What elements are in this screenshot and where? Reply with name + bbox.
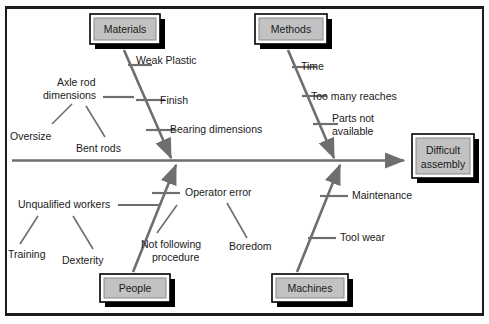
fishbone-diagram: Weak Plastic Finish Bearing dimensions A… xyxy=(0,0,489,324)
category-box-materials[interactable]: Materials xyxy=(90,14,165,49)
cause-label-bearing-dimensions: Bearing dimensions xyxy=(170,123,262,135)
twig-dexterity xyxy=(73,216,93,249)
cause-label-time: Time xyxy=(301,60,324,72)
effect-box-label-line1: Difficult xyxy=(426,144,460,156)
cause-label-oversize: Oversize xyxy=(10,130,52,142)
effect-box-label-line2: assembly xyxy=(421,158,466,170)
cause-label-dexterity: Dexterity xyxy=(62,254,104,266)
cause-label-too-many-reaches: Too many reaches xyxy=(311,90,397,102)
cause-label-finish: Finish xyxy=(160,94,188,106)
cause-label-not-following-procedure-line1: Not following xyxy=(141,238,201,250)
cause-label-parts-not-available-line2: available xyxy=(332,125,374,137)
cause-label-bent-rods: Bent rods xyxy=(76,142,121,154)
twig-boredom xyxy=(227,203,247,238)
cause-label-unqualified-workers: Unqualified workers xyxy=(18,198,110,210)
category-box-label-methods: Methods xyxy=(271,23,311,35)
twig-bent-rods xyxy=(86,106,105,137)
cause-label-not-following-procedure-line2: procedure xyxy=(152,251,199,263)
category-box-machines[interactable]: Machines xyxy=(272,274,353,307)
cause-label-operator-error: Operator error xyxy=(185,186,252,198)
cause-label-axle-rod-dimensions-line1: Axle rod xyxy=(57,76,96,88)
cause-label-tool-wear: Tool wear xyxy=(340,231,385,243)
effect-box-difficult-assembly[interactable]: Difficult assembly xyxy=(412,134,479,183)
twig-oversize xyxy=(52,104,72,124)
cause-label-maintenance: Maintenance xyxy=(352,189,412,201)
category-box-label-people: People xyxy=(119,282,152,294)
cause-label-parts-not-available-line1: Parts not xyxy=(332,112,374,124)
rib-machines xyxy=(297,165,340,272)
category-box-label-machines: Machines xyxy=(288,282,333,294)
category-box-people[interactable]: People xyxy=(100,274,175,307)
category-box-label-materials: Materials xyxy=(104,23,147,35)
fishbone-canvas: Weak Plastic Finish Bearing dimensions A… xyxy=(0,0,489,324)
twig-training xyxy=(20,216,38,244)
cause-label-axle-rod-dimensions-line2: dimensions xyxy=(43,89,96,101)
category-box-methods[interactable]: Methods xyxy=(255,14,332,49)
twig-not-following-procedure xyxy=(157,205,177,233)
cause-label-boredom: Boredom xyxy=(229,240,272,252)
cause-label-training: Training xyxy=(8,248,46,260)
cause-label-weak-plastic: Weak Plastic xyxy=(136,54,197,66)
